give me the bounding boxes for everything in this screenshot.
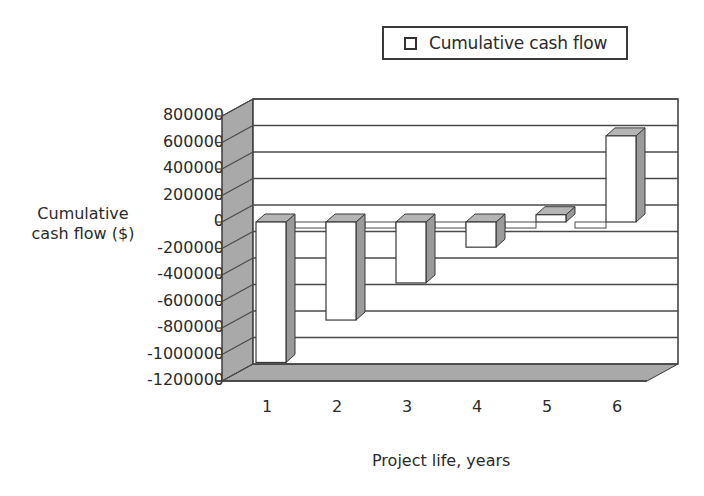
bar <box>396 222 426 283</box>
bar-side <box>356 214 365 320</box>
plot-area <box>0 0 704 496</box>
bar-side <box>286 214 295 362</box>
bar <box>326 222 356 320</box>
bar <box>536 215 566 222</box>
bar <box>606 136 636 222</box>
bar-side <box>426 214 435 283</box>
bar-side <box>636 128 645 222</box>
bar <box>256 222 286 362</box>
zero-plane-segment <box>575 222 606 228</box>
floor <box>222 364 678 381</box>
zero-plane-segment <box>505 222 536 228</box>
zero-plane-segment <box>365 222 396 228</box>
bar <box>466 222 496 247</box>
zero-plane-segment <box>295 222 326 228</box>
zero-plane-segment <box>435 222 466 228</box>
